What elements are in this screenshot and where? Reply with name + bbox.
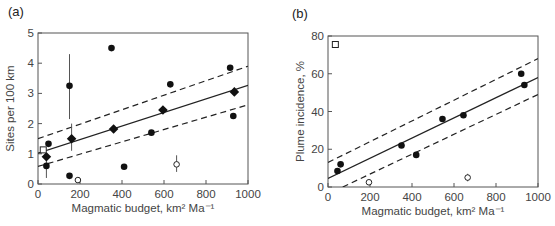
x-tick-label: 200 [70, 188, 89, 200]
panel-a: (a)02004006008001000012345Magmatic budge… [4, 4, 261, 214]
lower-confidence-line [343, 95, 538, 187]
data-point-circle [108, 45, 115, 52]
y-tick-label: 0 [318, 181, 324, 193]
data-point-circle [518, 70, 525, 77]
data-point-open-circle [366, 179, 372, 185]
y-tick-label: 40 [311, 106, 324, 118]
x-tick-label: 400 [112, 188, 131, 200]
data-point-open-circle [465, 175, 471, 181]
y-tick-label: 1 [28, 148, 34, 160]
data-point-circle [45, 141, 52, 148]
y-tick-label: 4 [28, 57, 35, 69]
x-tick-label: 0 [35, 188, 41, 200]
data-point-circle [521, 82, 528, 89]
data-point-circle [167, 81, 174, 88]
panel-b: (b)02004006008001000020406080Magmatic bu… [292, 6, 551, 217]
data-point-circle [460, 112, 467, 119]
panel-label: (a) [8, 4, 24, 19]
data-point-diamond [109, 124, 119, 134]
data-point-circle [148, 129, 155, 136]
data-point-circle [334, 168, 341, 175]
data-point-open-circle [75, 177, 81, 183]
x-tick-label: 200 [360, 191, 379, 203]
y-tick-label: 5 [28, 27, 34, 39]
data-point-diamond [67, 134, 77, 144]
data-point-circle [230, 113, 237, 120]
plot-frame [328, 36, 538, 187]
regression-line [328, 78, 538, 179]
data-point-circle [121, 163, 128, 170]
x-tick-label: 1000 [235, 188, 261, 200]
y-tick-label: 0 [28, 178, 34, 190]
y-tick-label: 60 [311, 68, 324, 80]
data-point-open-square [332, 41, 338, 47]
y-tick-label: 3 [28, 87, 34, 99]
data-point-circle [66, 83, 73, 90]
x-tick-label: 400 [402, 191, 421, 203]
y-tick-label: 2 [28, 118, 34, 130]
data-point-circle [398, 142, 405, 149]
data-point-open-circle [174, 162, 180, 168]
x-tick-label: 800 [196, 188, 215, 200]
x-tick-label: 600 [154, 188, 173, 200]
upper-confidence-line [328, 59, 538, 163]
y-axis-label: Sites per 100 km [4, 65, 16, 151]
y-tick-label: 20 [311, 143, 324, 155]
x-tick-label: 1000 [525, 191, 551, 203]
x-tick-label: 600 [444, 191, 463, 203]
figure: (a)02004006008001000012345Magmatic budge… [0, 0, 555, 226]
x-tick-label: 800 [486, 191, 505, 203]
data-point-diamond [42, 152, 52, 162]
data-point-circle [66, 173, 73, 180]
panel-label: (b) [292, 6, 308, 21]
y-axis-label: Plume incidence, % [294, 61, 306, 162]
x-axis-label: Magmatic budget, km² Ma⁻¹ [72, 202, 215, 214]
data-point-open-square [40, 147, 46, 153]
data-point-circle [43, 163, 50, 170]
data-point-circle [413, 152, 420, 159]
x-axis-label: Magmatic budget, km² Ma⁻¹ [362, 205, 505, 217]
data-point-circle [337, 161, 344, 168]
y-tick-label: 80 [311, 30, 324, 42]
x-tick-label: 0 [325, 191, 331, 203]
data-point-circle [227, 64, 234, 71]
data-point-circle [439, 116, 446, 123]
